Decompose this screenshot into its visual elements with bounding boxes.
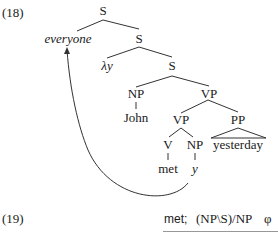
example-number-19: (19) (2, 212, 24, 226)
formula-semantics: φ (264, 212, 272, 226)
node-np-object: NP (187, 138, 204, 152)
node-vp-top: VP (201, 87, 218, 101)
node-v: V (163, 138, 172, 152)
example-number-18: (18) (2, 6, 24, 20)
node-pp: PP (231, 113, 245, 127)
node-s-2: S (135, 32, 142, 46)
formula-type: (NP\S)/NP (196, 212, 252, 226)
node-s-root: S (99, 4, 106, 18)
node-yesterday: yesterday (213, 138, 263, 152)
node-y: y (192, 162, 198, 176)
node-lambda-y: λy (101, 59, 112, 73)
node-met: met (158, 162, 178, 176)
arrow-head-icon (64, 47, 70, 54)
node-np-subject: NP (128, 87, 145, 101)
node-vp-inner: VP (173, 113, 190, 127)
node-everyone: everyone (45, 32, 92, 46)
formula-word: met; (164, 212, 187, 226)
node-s-3: S (168, 59, 175, 73)
node-john: John (124, 111, 149, 125)
